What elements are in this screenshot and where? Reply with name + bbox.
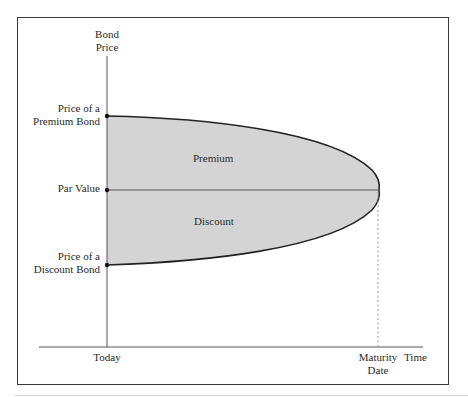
time-axis-label: Time [404, 351, 427, 364]
y-axis-title-line1: Bond [87, 28, 127, 41]
discount-price-label: Price of a Discount Bond [20, 250, 100, 276]
premium-region-label: Premium [193, 152, 233, 165]
maturity-date-label-line2: Date [353, 364, 403, 377]
discount-region-label: Discount [194, 215, 234, 228]
discount-price-dot [105, 263, 109, 267]
maturity-date-label: Maturity Date [353, 351, 403, 377]
bond-price-convergence-diagram [0, 0, 468, 397]
discount-price-label-line2: Discount Bond [20, 263, 100, 276]
premium-price-label-line1: Price of a [20, 102, 100, 115]
y-axis-title-line2: Price [87, 41, 127, 54]
today-label: Today [87, 351, 127, 364]
maturity-date-label-line1: Maturity [353, 351, 403, 364]
premium-price-dot [105, 114, 109, 118]
y-axis-title: Bond Price [87, 28, 127, 54]
premium-price-label-line2: Premium Bond [20, 115, 100, 128]
premium-price-label: Price of a Premium Bond [20, 102, 100, 128]
par-value-dot [105, 188, 109, 192]
discount-price-label-line1: Price of a [20, 250, 100, 263]
par-value-label: Par Value [20, 182, 100, 195]
